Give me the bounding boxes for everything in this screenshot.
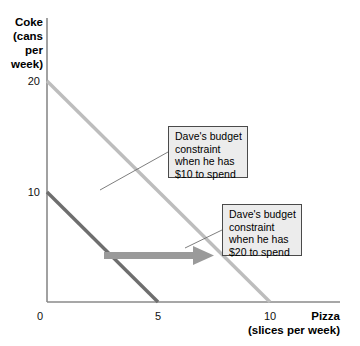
- x-axis-label-sub: (slices per week): [248, 324, 340, 336]
- leader-line-callout-10: [100, 152, 168, 190]
- y-tick-label-10: 10: [28, 186, 40, 198]
- shift-arrow-icon: [104, 246, 214, 265]
- y-axis-label-line-4: week): [10, 58, 43, 70]
- budget-line-20-dollars: [47, 81, 270, 302]
- x-tick-label-5: 5: [155, 310, 161, 322]
- budget-constraint-figure: Coke (cans per week) 20 10 0 5 10 Pizza …: [0, 0, 360, 346]
- callout-budget-10-dollars: Dave's budget constraint when he has $10…: [168, 126, 248, 178]
- y-axis-label-line-2: (cans: [13, 30, 43, 42]
- x-tick-label-0: 0: [37, 310, 43, 322]
- budget-line-10-dollars: [47, 192, 158, 302]
- x-tick-label-10: 10: [264, 310, 276, 322]
- leader-line-callout-20: [185, 230, 222, 248]
- y-axis-label-line-3: per: [25, 44, 43, 56]
- x-axis-label-main: Pizza: [311, 310, 340, 322]
- callout-budget-20-dollars: Dave's budget constraint when he has $20…: [222, 204, 302, 256]
- y-tick-label-20: 20: [28, 75, 40, 87]
- y-axis-label-line-1: Coke: [15, 16, 43, 28]
